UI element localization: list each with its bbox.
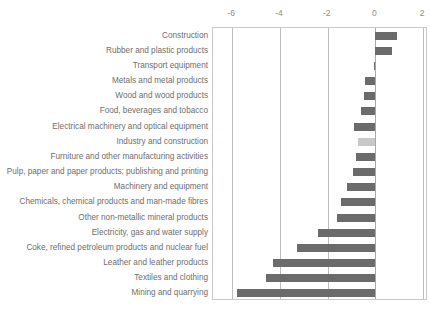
bar <box>364 92 376 100</box>
bar <box>358 138 376 146</box>
bar <box>318 229 375 237</box>
gridline <box>423 28 424 299</box>
category-label: Electrical machinery and optical equipme… <box>2 121 208 130</box>
bar <box>347 183 376 191</box>
category-label: Food, beverages and tobacco <box>2 106 208 115</box>
category-label: Construction <box>2 30 208 39</box>
bar <box>266 274 376 282</box>
plot-area <box>212 27 427 300</box>
category-label: Coke, refined petroleum products and nuc… <box>2 242 208 251</box>
category-label: Wood and wood products <box>2 91 208 100</box>
bar <box>356 153 375 161</box>
bar <box>341 198 376 206</box>
category-label: Machinery and equipment <box>2 182 208 191</box>
bar <box>354 123 376 131</box>
bar <box>297 244 376 252</box>
category-label: Rubber and plastic products <box>2 45 208 54</box>
category-label: Mining and quarrying <box>2 288 208 297</box>
category-label: Leather and leather products <box>2 258 208 267</box>
category-label: Pulp, paper and paper products; publishi… <box>2 167 208 176</box>
category-label: Industry and construction <box>2 136 208 145</box>
bar <box>374 62 375 70</box>
x-tick-label: -4 <box>275 8 283 18</box>
gridline <box>232 28 233 299</box>
bar <box>353 168 376 176</box>
bar <box>237 289 376 297</box>
x-tick-label: -2 <box>323 8 331 18</box>
bar <box>273 259 376 267</box>
bar-chart: -6-4-202 ConstructionRubber and plastic … <box>0 0 431 309</box>
bar <box>375 32 397 40</box>
category-label: Metals and metal products <box>2 76 208 85</box>
bar <box>365 77 376 85</box>
category-label: Textiles and clothing <box>2 273 208 282</box>
x-tick-label: 2 <box>420 8 425 18</box>
category-label: Electricity, gas and water supply <box>2 227 208 236</box>
category-label: Furniture and other manufacturing activi… <box>2 151 208 160</box>
bar <box>375 47 392 55</box>
x-tick-label: -6 <box>227 8 235 18</box>
bar <box>337 214 375 222</box>
bar <box>361 107 375 115</box>
category-label: Chemicals, chemical products and man-mad… <box>2 197 208 206</box>
category-label: Transport equipment <box>2 60 208 69</box>
x-tick-label: 0 <box>372 8 377 18</box>
category-label: Other non-metallic mineral products <box>2 212 208 221</box>
